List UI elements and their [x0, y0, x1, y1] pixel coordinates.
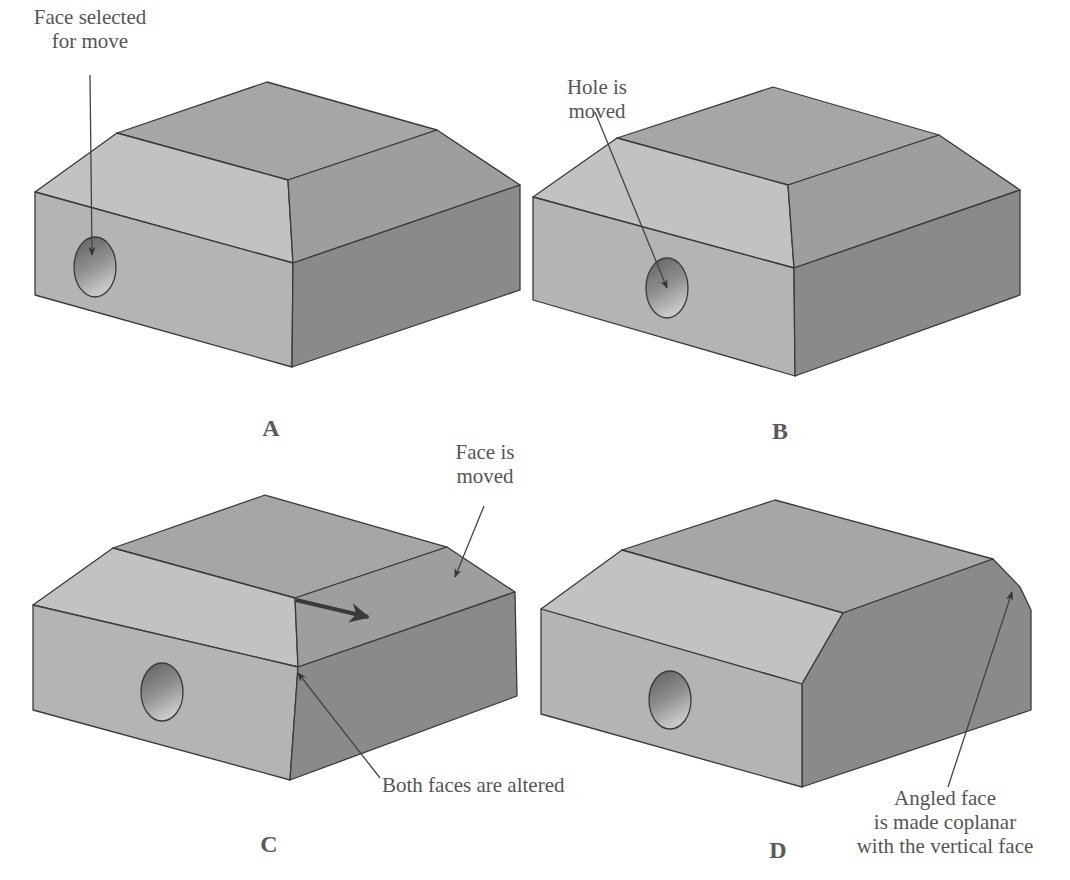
callout-face-moved: Face is moved: [430, 440, 540, 488]
callout-angled-face-coplanar: Angled face is made coplanar with the ve…: [825, 786, 1065, 858]
block-a: [35, 75, 520, 367]
panel-letter-b: B: [760, 418, 800, 445]
hole: [649, 671, 691, 729]
block-c: [33, 495, 517, 780]
panel-letter-a: A: [251, 415, 291, 442]
hole: [74, 237, 116, 297]
block-b: [533, 87, 1020, 376]
panel-letter-c: C: [249, 831, 289, 858]
hole: [141, 663, 183, 721]
block-d: [541, 500, 1031, 787]
callout-hole-moved: Hole is moved: [532, 75, 662, 123]
figure-stage: Face selected for move A Hole is moved B…: [0, 0, 1070, 880]
callout-face-selected: Face selected for move: [20, 5, 160, 53]
panel-letter-d: D: [758, 837, 798, 864]
callout-both-faces-altered: Both faces are altered: [382, 773, 564, 797]
